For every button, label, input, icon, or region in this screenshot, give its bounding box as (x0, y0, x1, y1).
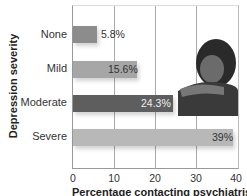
y-axis-label: Depression severity (7, 21, 19, 151)
value-label-moderate: 24.3% (141, 97, 171, 109)
value-label-severe: 39% (212, 131, 233, 143)
x-tick-0: 0 (70, 172, 76, 184)
x-tick-20: 20 (149, 172, 161, 184)
x-tick-10: 10 (108, 172, 120, 184)
category-label-none: None (41, 28, 67, 40)
woman-photo-image (178, 31, 238, 116)
category-label-mild: Mild (47, 62, 67, 74)
x-tick-40: 40 (230, 172, 242, 184)
value-label-mild: 15.6% (108, 63, 138, 75)
bar-none (73, 26, 97, 43)
category-label-moderate: Moderate (21, 96, 67, 108)
x-tick-30: 30 (190, 172, 202, 184)
x-axis-label: Percentage contacting psychiatrist (72, 186, 247, 196)
value-label-none: 5.8% (101, 28, 125, 40)
category-label-severe: Severe (32, 130, 67, 142)
bar-severe (73, 129, 233, 146)
plot-area: 5.8% 15.6% 24.3% 39% (72, 5, 239, 169)
